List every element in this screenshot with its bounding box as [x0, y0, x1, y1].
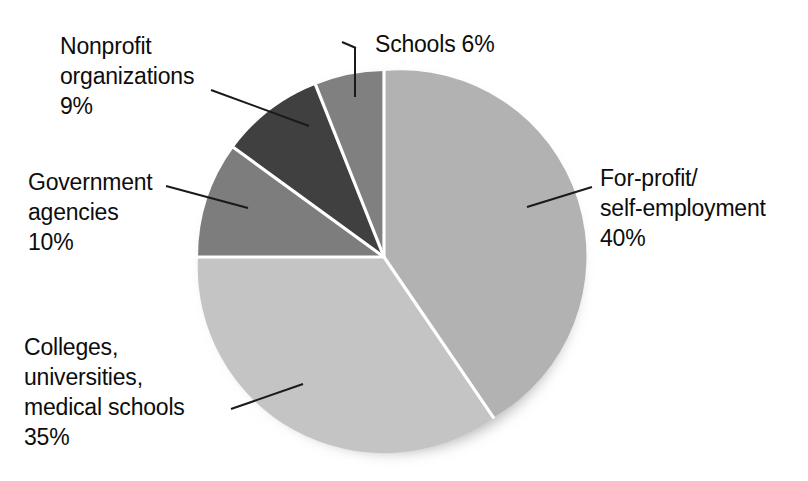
slice-label-schools: Schools 6%	[375, 30, 575, 60]
slice-label-nonprofit: Nonprofit organizations 9%	[60, 32, 270, 122]
leader-line-schools-elbow	[342, 42, 356, 48]
pie-chart-figure: Nonprofit organizations 9% Schools 6% Fo…	[0, 0, 808, 481]
slice-label-government: Government agencies 10%	[28, 168, 223, 258]
slice-label-colleges: Colleges, universities, medical schools …	[24, 333, 294, 453]
slice-label-for-profit: For-profit/ self-employment 40%	[600, 164, 805, 254]
